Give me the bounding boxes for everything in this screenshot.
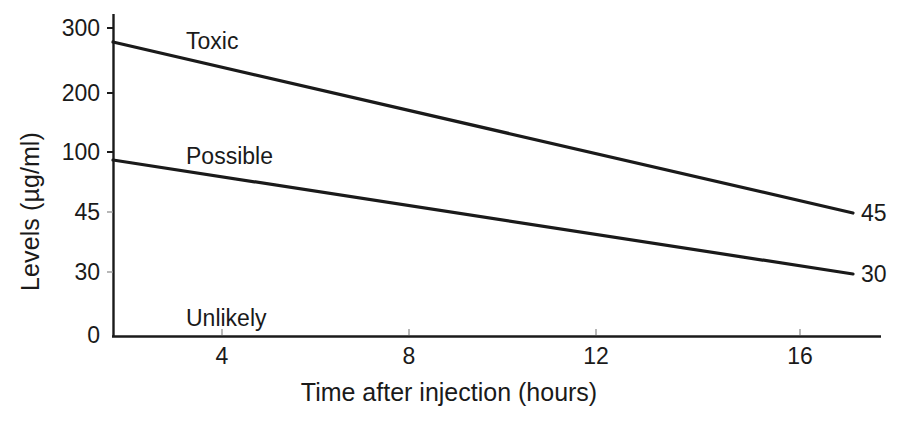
y-tick-label-0: 0: [40, 322, 100, 349]
region-label-unlikely: Unlikely: [186, 305, 267, 332]
y-tick-label-200: 200: [40, 80, 100, 107]
x-tick-label-12: 12: [583, 343, 609, 370]
region-label-toxic: Toxic: [186, 28, 238, 55]
series-line-toxic: [113, 42, 853, 213]
x-tick-label-16: 16: [787, 343, 813, 370]
endpoint-label-possible: 30: [861, 261, 887, 288]
y-tick-label-100: 100: [40, 139, 100, 166]
y-axis-ticks: [107, 28, 113, 272]
x-tick-label-4: 4: [216, 343, 229, 370]
y-tick-label-30: 30: [40, 259, 100, 286]
x-axis-ticks: [222, 329, 800, 335]
region-label-possible: Possible: [186, 143, 273, 170]
y-tick-label-300: 300: [40, 15, 100, 42]
x-axis-title: Time after injection (hours): [0, 378, 898, 407]
x-tick-label-8: 8: [403, 343, 416, 370]
endpoint-label-toxic: 45: [861, 200, 887, 227]
chart-figure: 300 200 100 45 30 0 4 8 12 16 Toxic Poss…: [0, 0, 898, 423]
y-tick-label-45: 45: [40, 199, 100, 226]
chart-plot-area: [0, 0, 898, 423]
series-line-possible: [113, 160, 853, 274]
